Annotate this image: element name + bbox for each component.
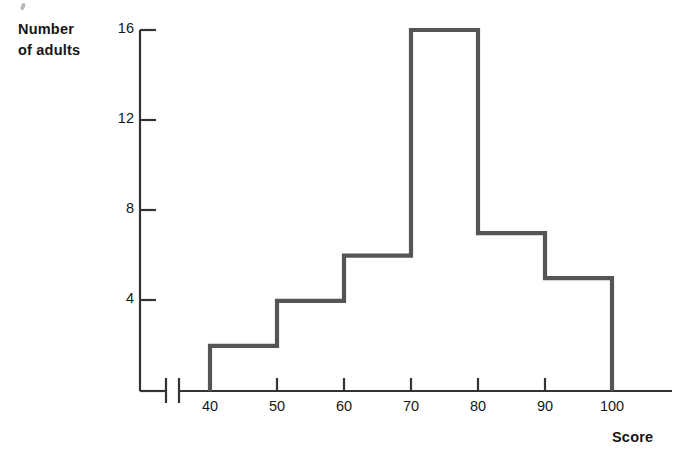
y-axis-title: Number of adults <box>18 19 80 61</box>
y-tick-label-4: 4 <box>100 290 134 306</box>
y-tick-label-8: 8 <box>100 200 134 216</box>
x-axis-title: Score <box>612 427 653 448</box>
x-tick-label-100: 100 <box>592 398 632 414</box>
x-tick-label-40: 40 <box>190 398 230 414</box>
x-tick-label-80: 80 <box>458 398 498 414</box>
y-tick-label-16: 16 <box>100 20 134 36</box>
histogram-chart <box>0 0 678 463</box>
x-tick-label-70: 70 <box>391 398 431 414</box>
y-tick-label-12: 12 <box>100 110 134 126</box>
histogram-step-outline <box>210 30 612 391</box>
x-tick-label-50: 50 <box>257 398 297 414</box>
x-tick-label-60: 60 <box>324 398 364 414</box>
histogram-figure: Number of adults Score 16 12 8 4 40 50 6… <box>0 0 678 463</box>
x-tick-label-90: 90 <box>525 398 565 414</box>
